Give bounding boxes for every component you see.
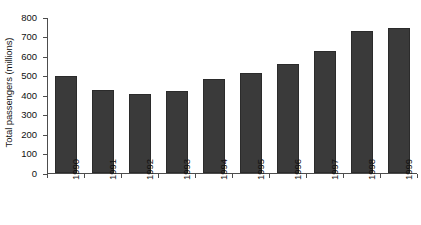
y-axis-tick: 700 [43,37,47,38]
x-axis-tick [47,174,48,178]
bar [388,28,410,173]
x-axis-tick [380,174,381,178]
x-axis-tick [232,174,233,178]
x-axis-label-text: 1996 [292,159,303,180]
x-axis-label-text: 1997 [329,159,340,180]
bar [314,51,336,173]
y-axis-tick: 600 [43,57,47,58]
x-axis-tick [84,174,85,178]
x-axis-tick [269,174,270,178]
x-axis-tick [121,174,122,178]
y-axis-tick-label: 0 [32,168,37,179]
x-axis-tick [343,174,344,178]
x-axis-label-text: 1992 [144,159,155,180]
y-axis-tick: 500 [43,76,47,77]
y-axis-tick-label: 200 [21,129,37,140]
y-axis-tick-label: 300 [21,109,37,120]
y-axis-tick: 100 [43,154,47,155]
bar [351,31,373,173]
x-axis-label-text: 1990 [70,159,81,180]
y-axis-line [47,18,48,174]
y-axis-tick-label: 500 [21,70,37,81]
plot-area: 8007006005004003002001000 19901991199219… [47,18,417,174]
y-axis-tick-label: 600 [21,51,37,62]
y-axis-tick: 200 [43,135,47,136]
x-axis-label-text: 1998 [366,159,377,180]
x-axis-label-text: 1994 [218,159,229,180]
x-axis-label-text: 1991 [107,159,118,180]
x-axis-tick [417,174,418,178]
y-axis-tick-label: 700 [21,31,37,42]
y-axis-title-text: Total passengers (millions) [4,37,15,147]
x-axis-label-text: 1993 [181,159,192,180]
x-axis-label-text: 1999 [403,159,414,180]
y-axis-tick-label: 400 [21,90,37,101]
y-axis-tick-label: 800 [21,12,37,23]
figure: Total passengers (millions) 800700600500… [0,0,421,225]
x-axis-tick [158,174,159,178]
x-axis-tick [195,174,196,178]
y-axis-tick: 800 [43,18,47,19]
y-axis-tick-label: 100 [21,148,37,159]
y-axis-tick: 300 [43,115,47,116]
y-axis-tick: 400 [43,96,47,97]
bar [277,64,299,173]
x-axis-tick [306,174,307,178]
y-axis-title: Total passengers (millions) [0,8,18,176]
x-axis-label-text: 1995 [255,159,266,180]
